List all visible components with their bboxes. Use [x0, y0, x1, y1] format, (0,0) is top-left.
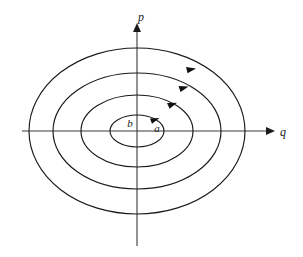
semi-minor-axis-label: b [127, 117, 133, 129]
clockwise-flow-arrow-3 [179, 86, 189, 92]
p-axis-label: p [137, 10, 144, 24]
phase-space-figure: q p b a [0, 0, 303, 257]
q-axis-label: q [280, 125, 286, 139]
arrow-up-icon [133, 23, 141, 32]
arrow-right-icon [266, 127, 275, 135]
phase-diagram-svg: q p b a [0, 0, 303, 257]
clockwise-flow-arrow-2 [167, 103, 177, 109]
p-axis-group: p [133, 10, 144, 246]
semi-major-axis-label: a [154, 122, 160, 134]
clockwise-flow-arrow-4 [186, 67, 196, 73]
flow-direction-arrows [150, 67, 196, 124]
